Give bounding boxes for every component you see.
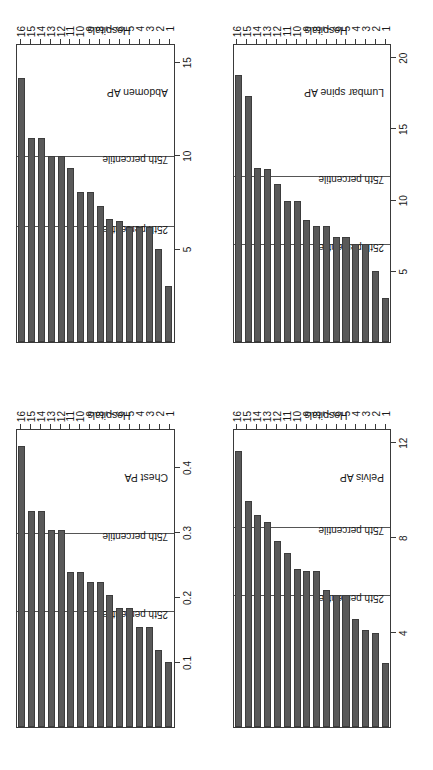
bar xyxy=(284,201,291,342)
category-tick-label: 16 xyxy=(232,411,243,422)
category-tick xyxy=(119,39,120,44)
bar xyxy=(294,569,301,727)
category-tick xyxy=(69,424,70,429)
category-tick xyxy=(129,39,130,44)
category-tick-label: 10 xyxy=(75,26,86,37)
p75-reference-line-label: 75th percentile xyxy=(318,525,384,536)
category-tick xyxy=(109,424,110,429)
bar xyxy=(146,227,153,342)
category-tick xyxy=(286,424,287,429)
bar xyxy=(313,571,320,727)
bar xyxy=(38,138,45,342)
category-tick xyxy=(316,424,317,429)
category-tick xyxy=(50,424,51,429)
bar xyxy=(155,650,162,727)
bar xyxy=(58,530,65,727)
value-tick xyxy=(391,442,396,443)
category-tick xyxy=(336,39,337,44)
category-tick-label: 11 xyxy=(281,26,292,36)
bar xyxy=(352,619,359,727)
category-tick xyxy=(256,39,257,44)
bar xyxy=(372,271,379,342)
value-tick-label: 0.3 xyxy=(182,526,193,540)
category-tick xyxy=(149,424,150,429)
category-tick xyxy=(345,39,346,44)
bar xyxy=(77,192,84,342)
bar xyxy=(136,227,143,342)
category-tick xyxy=(89,39,90,44)
category-tick-label: 15 xyxy=(242,411,253,422)
category-tick-label: 13 xyxy=(262,411,273,422)
category-tick xyxy=(296,39,297,44)
plot-area: 25th percentile75th percentilePelvis AP xyxy=(233,429,392,728)
category-tick xyxy=(375,39,376,44)
category-tick-label: 13 xyxy=(45,411,56,422)
category-tick xyxy=(169,39,170,44)
panel-title: Abdomen AP xyxy=(106,87,167,99)
bar xyxy=(235,451,242,727)
category-tick xyxy=(246,39,247,44)
category-tick-label: 10 xyxy=(291,411,302,422)
bar xyxy=(372,633,379,727)
category-tick xyxy=(345,424,346,429)
value-tick xyxy=(175,662,180,663)
bar xyxy=(116,608,123,727)
category-tick-label: 2 xyxy=(371,26,382,32)
category-axis-title: Hospitals xyxy=(88,411,131,423)
bar xyxy=(28,511,35,727)
bar xyxy=(264,169,271,342)
bar xyxy=(58,156,65,342)
bar xyxy=(342,237,349,342)
category-tick xyxy=(336,424,337,429)
value-tick xyxy=(391,57,396,58)
category-tick xyxy=(266,39,267,44)
bar xyxy=(77,572,84,727)
category-tick xyxy=(139,424,140,429)
category-tick-label: 1 xyxy=(381,26,392,32)
category-tick xyxy=(79,424,80,429)
bar xyxy=(362,244,369,342)
category-tick-label: 3 xyxy=(361,26,372,32)
panel-lumbar-spine-ap: Mean entrance surfacedose (mGy)25th perc… xyxy=(217,0,433,385)
category-tick xyxy=(326,39,327,44)
bar xyxy=(235,75,242,342)
plot-area: 25th percentile75th percentileAbdomen AP xyxy=(16,44,175,343)
panel-pelvis-ap: Mean entrance surfacedose (mGy)25th perc… xyxy=(217,385,433,770)
category-axis-title: Hospitals xyxy=(304,411,347,423)
category-tick-label: 11 xyxy=(65,411,76,421)
value-tick-label: 5 xyxy=(398,269,409,275)
category-tick xyxy=(306,39,307,44)
category-tick-label: 14 xyxy=(252,26,263,37)
category-tick xyxy=(99,424,100,429)
category-tick-label: 10 xyxy=(291,26,302,37)
category-tick xyxy=(119,424,120,429)
value-tick xyxy=(391,271,396,272)
category-tick xyxy=(306,424,307,429)
value-tick-label: 5 xyxy=(182,247,193,253)
category-tick xyxy=(256,424,257,429)
category-tick-label: 12 xyxy=(55,411,66,422)
category-tick xyxy=(316,39,317,44)
bar xyxy=(126,227,133,342)
bar xyxy=(323,226,330,342)
category-tick xyxy=(30,39,31,44)
bar xyxy=(18,78,25,342)
category-tick-label: 1 xyxy=(381,411,392,417)
bar xyxy=(274,184,281,342)
bar xyxy=(87,582,94,727)
category-tick xyxy=(30,424,31,429)
value-tick xyxy=(391,200,396,201)
category-tick-label: 3 xyxy=(144,26,155,32)
category-tick xyxy=(296,424,297,429)
category-tick-label: 3 xyxy=(361,411,372,417)
value-tick-label: 8 xyxy=(398,535,409,541)
category-tick-label: 16 xyxy=(15,411,26,422)
category-tick-label: 14 xyxy=(35,26,46,37)
category-tick-label: 2 xyxy=(371,411,382,417)
category-tick-label: 16 xyxy=(232,26,243,37)
category-tick-label: 4 xyxy=(351,26,362,32)
category-tick xyxy=(89,424,90,429)
category-tick xyxy=(246,424,247,429)
category-tick-label: 3 xyxy=(144,411,155,417)
p75-reference-line-label: 75th percentile xyxy=(102,531,168,542)
